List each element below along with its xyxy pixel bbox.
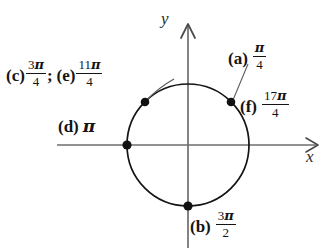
fraction-c: 3π4 [26,58,46,89]
y-axis-label: y [161,10,169,27]
fraction-f-denominator: 4 [262,105,289,120]
point-180-dot [122,140,131,149]
label-d-tag: (d) [58,117,79,136]
x-axis-label: x [306,148,314,165]
fraction-c-denominator: 4 [26,74,46,89]
pi-symbol: π [255,40,265,55]
fraction-b-denominator: 2 [216,225,236,240]
label-f-tag: (f) [240,97,257,116]
fraction-e: 11π4 [76,58,102,89]
pi-symbol: π [277,88,287,103]
label-e-tag: (e) [57,66,76,85]
pi-symbol: π [91,57,101,72]
fraction-e-numerator: 11 [78,57,91,72]
label-d: (d) π [58,118,95,135]
label-separator: ; [47,66,53,85]
label-b: (b) 3π2 [190,209,237,240]
label-b-tag: (b) [190,217,211,236]
fraction-b: 3π2 [216,209,236,240]
fraction-f-numerator: 17 [264,88,277,103]
pi-symbol: π [224,208,234,223]
fraction-a: π4 [253,41,267,72]
label-f: (f) 17π4 [240,89,290,120]
point-135-dot [141,98,150,107]
label-c-tag: (c) [6,66,25,85]
figure-canvas [0,0,330,248]
label-a: (a) π4 [228,41,267,72]
fraction-a-denominator: 4 [253,57,267,72]
fraction-e-denominator: 4 [76,74,102,89]
point-45-dot [227,98,236,107]
label-d-value: π [83,116,95,136]
label-a-tag: (a) [228,49,248,68]
label-c-and-e: (c)3π4; (e)11π4 [6,58,103,89]
pi-symbol: π [34,57,44,72]
unit-circle-figure: (c)3π4; (e)11π4 (a) π4 (f) 17π4 (d) π (b… [0,0,330,248]
fraction-f: 17π4 [262,89,289,120]
